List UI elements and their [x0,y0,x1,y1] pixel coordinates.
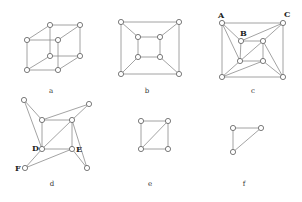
graph-vertex [21,97,26,102]
graph-vertex [230,149,235,154]
graph-edge [58,25,80,40]
graph-vertex [219,74,224,79]
graph-edge [160,22,179,37]
graph-edge [263,61,283,77]
vertex-label: C [284,9,290,19]
panel-caption: e [148,180,152,188]
graph-vertex [22,165,27,170]
graph-edge [24,100,42,120]
graph-vertex [280,20,285,25]
graph-panel-c: ACBc [217,9,290,95]
graph-edge [27,56,50,70]
graph-vertex [165,146,170,151]
vertex-label: A [217,10,225,20]
graph-vertex [69,146,74,151]
graph-edge [121,22,138,37]
graph-vertex [86,101,91,106]
graph-edge [222,61,263,77]
vertex-label: E [76,144,82,154]
graph-edge [27,25,50,40]
graph-vertex [55,67,60,72]
panel-caption: b [145,87,150,95]
graph-vertex [280,74,285,79]
graph-edge [222,23,241,41]
graph-figure: abACBcDEFdef [0,0,302,202]
graph-panel-b: b [118,19,181,95]
graph-vertex [157,54,162,59]
graph-vertex [24,67,29,72]
panel-caption: a [49,87,53,95]
graph-vertex [238,38,243,43]
graph-vertex [138,118,143,123]
graph-vertex [138,146,143,151]
graph-vertex [165,118,170,123]
panel-caption: c [251,87,255,95]
graph-vertex [176,19,181,24]
graph-edge [24,100,42,149]
graph-vertex [39,117,44,122]
vertex-label: D [32,143,39,153]
graph-edge [160,57,179,74]
vertex-label: F [15,163,21,173]
graph-edge [222,61,240,77]
graph-vertex [47,22,52,27]
graph-vertex [47,53,52,58]
graph-vertex [176,71,181,76]
graph-edge [263,41,283,77]
graph-vertex [24,37,29,42]
graph-edge [233,128,261,152]
graph-vertex [55,37,60,42]
graph-vertex [77,22,82,27]
graph-vertex [84,165,89,170]
graph-edge [263,23,283,41]
panel-caption: f [243,180,247,188]
graph-edge [42,104,89,120]
graph-edge [72,104,89,120]
graph-edge [222,23,240,61]
graph-edge [58,56,80,70]
graph-vertex [77,53,82,58]
graph-vertex [260,58,265,63]
graph-vertex [135,34,140,39]
graph-edge [240,41,241,61]
graph-edge [42,120,72,149]
graph-vertex [135,54,140,59]
graph-vertex [118,19,123,24]
graph-vertex [219,20,224,25]
graph-panel-d: DEFd [15,97,92,188]
graph-vertex [258,125,263,130]
graph-panel-f: f [230,125,263,188]
panel-caption: d [50,180,55,188]
graph-edge [141,121,168,149]
graph-vertex [157,34,162,39]
graph-vertex [39,146,44,151]
graph-edge [121,57,138,74]
graph-vertex [237,58,242,63]
graph-vertex [69,117,74,122]
graph-panel-a: a [24,22,82,95]
graph-vertex [260,38,265,43]
graph-vertex [118,71,123,76]
graph-vertex [230,125,235,130]
graph-panel-e: e [138,118,170,188]
vertex-label: B [240,28,247,38]
graph-edge [240,41,263,61]
